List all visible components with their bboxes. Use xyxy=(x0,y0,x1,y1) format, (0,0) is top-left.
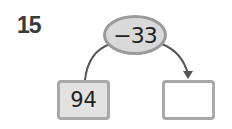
input-box: 94 xyxy=(57,80,110,120)
left-connector xyxy=(85,44,110,80)
answer-box[interactable] xyxy=(162,80,215,120)
right-arrow xyxy=(162,44,188,74)
operation-label: −33 xyxy=(113,23,156,48)
arrowhead-icon xyxy=(183,71,193,79)
operation-ellipse: −33 xyxy=(103,15,167,55)
input-value: 94 xyxy=(70,88,97,112)
